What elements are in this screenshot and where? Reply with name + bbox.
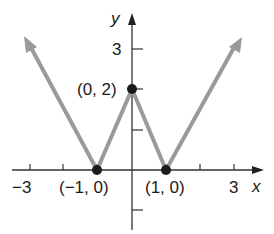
y-ticks [132, 49, 143, 210]
point-0-2 [127, 84, 137, 94]
x-tick-label-neg3: −3 [12, 179, 31, 196]
point-label-top: (0, 2) [77, 81, 117, 98]
point-label-right: (1, 0) [145, 179, 185, 196]
x-axis-arrow-icon [252, 166, 264, 174]
point-neg1-0 [92, 165, 102, 175]
y-axis-arrow-icon [128, 13, 136, 25]
x-axis-label: x [252, 178, 261, 195]
left-arrowhead-icon [24, 36, 37, 53]
graph-plot [0, 0, 274, 234]
point-label-left: (−1, 0) [59, 179, 109, 196]
x-tick-label-3: 3 [229, 179, 238, 196]
y-axis-label: y [111, 10, 120, 27]
point-1-0 [161, 165, 171, 175]
y-tick-label-3: 3 [112, 41, 121, 58]
